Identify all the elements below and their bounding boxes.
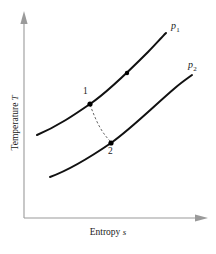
state-point-unlabeled-marker [125,71,129,75]
state-point-2-marker [108,140,113,145]
curve-label-p2-subscript: 2 [193,65,197,73]
y-axis-label-symbol: T [10,95,20,100]
x-axis-label-symbol: s [123,227,127,237]
x-axis-label: Entropy s [0,228,216,238]
state-point-1-label: 1 [83,87,88,97]
isobar-curve-p1 [37,33,166,135]
curve-label-p1: p1 [171,21,180,31]
state-point-1-marker [87,101,92,106]
up-arrow-icon [20,11,27,24]
curve-label-p2: p2 [188,60,197,70]
right-arrow-icon [195,214,208,221]
x-axis-label-text: Entropy [90,227,123,237]
diagram-canvas [0,0,216,254]
y-axis-label-text: Temperature [10,100,20,150]
isobar-curve-p2 [50,75,192,177]
state-point-2-label: 2 [108,147,113,157]
ts-diagram-figure: p1 p2 1 2 Entropy s Temperature T [0,0,216,254]
process-line-1-to-2 [90,105,111,142]
y-axis-label: Temperature T [11,63,21,183]
curve-label-p1-subscript: 1 [176,26,180,34]
